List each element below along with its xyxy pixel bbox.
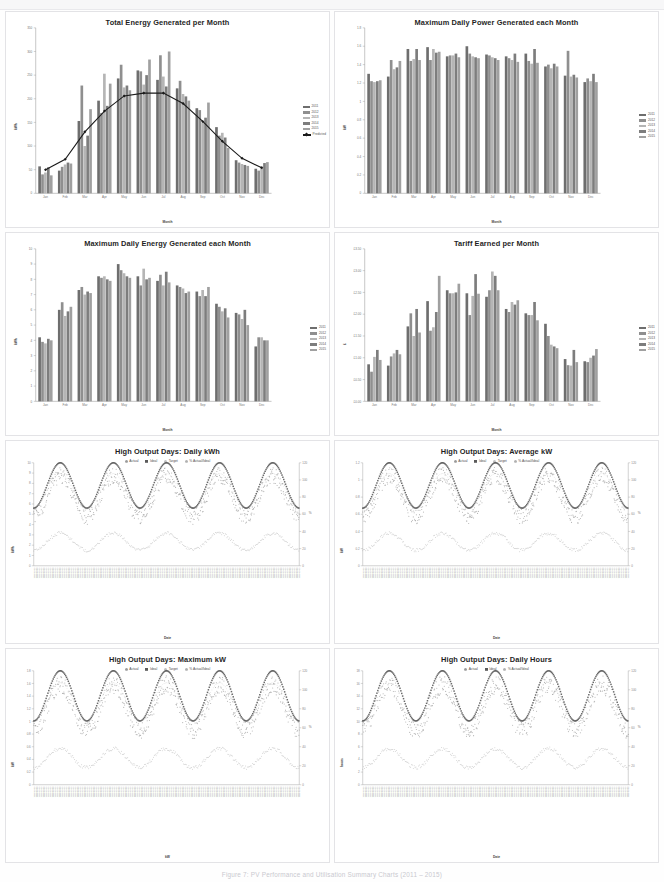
svg-text:10: 10	[27, 461, 31, 465]
svg-text:01/01/2011: 01/01/2011	[413, 787, 415, 798]
svg-text:01/01/2011: 01/01/2011	[110, 787, 112, 798]
svg-text:01/01/2011: 01/01/2011	[466, 787, 468, 798]
svg-text:01/01/2011: 01/01/2011	[59, 787, 61, 798]
svg-text:01/01/2011: 01/01/2011	[100, 787, 102, 798]
svg-text:01/01/2011: 01/01/2011	[368, 787, 370, 798]
svg-text:01/01/2011: 01/01/2011	[411, 568, 413, 579]
svg-text:01/01/2011: 01/01/2011	[77, 787, 79, 798]
svg-text:01/01/2011: 01/01/2011	[216, 787, 218, 798]
legend-item[interactable]: 2015	[639, 347, 655, 353]
svg-text:01/01/2011: 01/01/2011	[162, 787, 164, 798]
svg-text:01/01/2011: 01/01/2011	[404, 568, 406, 579]
svg-text:01/01/2011: 01/01/2011	[391, 787, 393, 798]
svg-text:01/01/2011: 01/01/2011	[491, 787, 493, 798]
svg-text:01/01/2011: 01/01/2011	[53, 568, 55, 579]
svg-text:01/01/2011: 01/01/2011	[232, 787, 234, 798]
svg-text:01/01/2011: 01/01/2011	[66, 568, 68, 579]
svg-text:Dec: Dec	[588, 403, 594, 407]
svg-text:01/01/2011: 01/01/2011	[41, 568, 43, 579]
svg-text:01/01/2011: 01/01/2011	[589, 568, 591, 579]
svg-text:01/01/2011: 01/01/2011	[626, 787, 628, 798]
svg-text:Apr: Apr	[102, 195, 107, 199]
legend-item[interactable]: 2015	[310, 347, 326, 353]
svg-text:01/01/2011: 01/01/2011	[116, 568, 118, 579]
svg-text:01/01/2011: 01/01/2011	[418, 568, 420, 579]
svg-text:May: May	[121, 403, 127, 407]
svg-text:01/01/2011: 01/01/2011	[62, 787, 64, 798]
svg-text:01/01/2011: 01/01/2011	[194, 568, 196, 579]
legend-swatch-icon	[310, 332, 317, 335]
svg-text:01/01/2011: 01/01/2011	[87, 568, 89, 579]
svg-text:Jul: Jul	[490, 403, 494, 407]
svg-text:01/01/2011: 01/01/2011	[625, 568, 627, 579]
svg-text:01/01/2011: 01/01/2011	[614, 787, 616, 798]
svg-text:100: 100	[631, 688, 636, 692]
svg-text:01/01/2011: 01/01/2011	[46, 568, 48, 579]
svg-text:01/01/2011: 01/01/2011	[223, 787, 225, 798]
svg-text:01/01/2011: 01/01/2011	[559, 787, 561, 798]
svg-text:01/01/2011: 01/01/2011	[527, 787, 529, 798]
document-page: Total Energy Generated per Month 0501001…	[0, 0, 664, 882]
svg-text:01/01/2011: 01/01/2011	[619, 568, 621, 579]
svg-text:01/01/2011: 01/01/2011	[285, 787, 287, 798]
chart-legend[interactable]: 20112012201320142015Predicted	[303, 104, 326, 138]
svg-text:01/01/2011: 01/01/2011	[264, 787, 266, 798]
svg-text:01/01/2011: 01/01/2011	[447, 787, 449, 798]
chart-card-max-daily-power-per-month[interactable]: Maximum Daily Power Generated each Month…	[334, 11, 659, 228]
svg-text:100: 100	[27, 144, 32, 148]
svg-text:01/01/2011: 01/01/2011	[461, 568, 463, 579]
legend-item[interactable]: Predicted	[303, 132, 326, 138]
svg-text:01/01/2011: 01/01/2011	[438, 568, 440, 579]
svg-text:01/01/2011: 01/01/2011	[379, 568, 381, 579]
svg-text:0: 0	[31, 400, 33, 404]
svg-text:01/01/2011: 01/01/2011	[199, 787, 201, 798]
svg-text:01/01/2011: 01/01/2011	[128, 787, 130, 798]
chart-card-total-energy-per-month[interactable]: Total Energy Generated per Month 0501001…	[5, 11, 330, 228]
chart-legend[interactable]: 20112012201320142015	[639, 112, 655, 140]
svg-text:01/01/2011: 01/01/2011	[578, 787, 580, 798]
svg-text:Jun: Jun	[141, 403, 146, 407]
svg-text:01/01/2011: 01/01/2011	[395, 787, 397, 798]
svg-text:01/01/2011: 01/01/2011	[416, 787, 418, 798]
svg-text:01/01/2011: 01/01/2011	[409, 787, 411, 798]
chart-card-high-output-days-average-kw[interactable]: High Output Days: Average kW ActualIdeal…	[334, 440, 659, 644]
svg-text:01/01/2011: 01/01/2011	[536, 787, 538, 798]
chart-legend[interactable]: 20112012201320142015	[310, 325, 326, 353]
svg-text:01/01/2011: 01/01/2011	[178, 787, 180, 798]
chart-card-high-output-days-daily-hours[interactable]: High Output Days: Daily Hours ActualIdea…	[334, 648, 659, 863]
svg-text:01/01/2011: 01/01/2011	[287, 568, 289, 579]
svg-text:01/01/2011: 01/01/2011	[566, 568, 568, 579]
svg-text:1.6: 1.6	[27, 682, 31, 686]
chart-card-tariff-earned-per-month[interactable]: Tariff Earned per Month £0.00£0.50£1.00£…	[334, 232, 659, 436]
svg-text:01/01/2011: 01/01/2011	[185, 787, 187, 798]
svg-text:01/01/2011: 01/01/2011	[134, 787, 136, 798]
svg-text:01/01/2011: 01/01/2011	[283, 568, 285, 579]
legend-swatch-icon	[310, 343, 317, 346]
svg-text:01/01/2011: 01/01/2011	[226, 787, 228, 798]
svg-text:01/01/2011: 01/01/2011	[516, 568, 518, 579]
svg-text:0.4: 0.4	[356, 530, 360, 534]
chart-card-max-daily-energy-per-month[interactable]: Maximum Daily Energy Generated each Mont…	[5, 232, 330, 436]
svg-text:01/01/2011: 01/01/2011	[493, 568, 495, 579]
legend-item[interactable]: 2015	[639, 134, 655, 140]
svg-text:01/01/2011: 01/01/2011	[73, 787, 75, 798]
chart-card-high-output-days-maximum-kw[interactable]: High Output Days: Maximum kW ActualIdeal…	[5, 648, 330, 863]
svg-text:01/01/2011: 01/01/2011	[123, 568, 125, 579]
svg-text:01/01/2011: 01/01/2011	[68, 787, 70, 798]
svg-text:01/01/2011: 01/01/2011	[114, 787, 116, 798]
svg-text:01/01/2011: 01/01/2011	[548, 568, 550, 579]
svg-text:01/01/2011: 01/01/2011	[78, 787, 80, 798]
svg-text:0.8: 0.8	[356, 495, 360, 499]
svg-text:01/01/2011: 01/01/2011	[628, 787, 630, 798]
svg-text:01/01/2011: 01/01/2011	[616, 787, 618, 798]
svg-text:01/01/2011: 01/01/2011	[477, 568, 479, 579]
svg-text:01/01/2011: 01/01/2011	[253, 568, 255, 579]
svg-text:01/01/2011: 01/01/2011	[224, 568, 226, 579]
svg-text:01/01/2011: 01/01/2011	[509, 787, 511, 798]
svg-text:01/01/2011: 01/01/2011	[189, 787, 191, 798]
svg-text:Aug: Aug	[509, 195, 515, 199]
chart-card-high-output-days-daily-kwh[interactable]: High Output Days: Daily kWh ActualIdealT…	[5, 440, 330, 644]
chart-legend[interactable]: 20112012201320142015	[639, 325, 655, 353]
svg-text:01/01/2011: 01/01/2011	[418, 787, 420, 798]
svg-text:01/01/2011: 01/01/2011	[101, 787, 103, 798]
